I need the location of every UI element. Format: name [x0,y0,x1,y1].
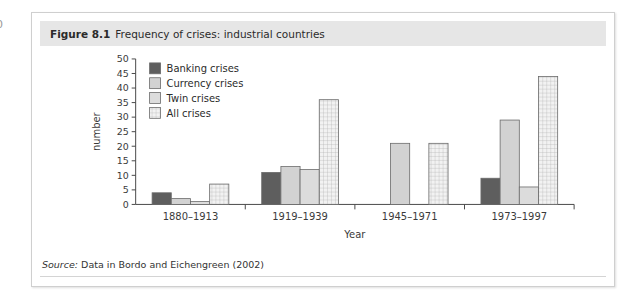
legend-label-banking-crises: Banking crises [167,63,239,74]
legend-label-twin-crises: Twin crises [166,93,221,104]
y-axis-tick-label: 45 [117,68,129,79]
figure-title-label: Frequency of crises: industrial countrie… [115,28,325,40]
chart-plot-area: 05101520253035404550number1880–19131919–… [40,53,606,246]
source-label: Source: [42,259,78,270]
bar-all-crises-1880–1913 [210,184,229,204]
bar-currency-crises-1919–1939 [281,167,300,205]
legend-swatch-all-crises [150,107,161,118]
y-axis-tick-label: 20 [117,141,129,152]
y-axis-tick-label: 10 [117,170,129,181]
y-axis-tick-label: 40 [117,82,129,93]
y-axis-tick-label: 15 [117,155,129,166]
y-axis-tick-label: 35 [117,97,129,108]
source-text: Data in Bordo and Eichengreen (2002) [78,259,264,270]
y-axis-tick-label: 30 [117,112,129,123]
bar-all-crises-1919–1939 [319,100,338,205]
y-axis-tick-label: 25 [117,126,129,137]
x-axis-category-label: 1973–1997 [491,211,547,222]
footer-divider [40,276,606,277]
bar-twin-crises-1919–1939 [300,170,319,205]
x-axis-category-label: 1880–1913 [163,211,219,222]
y-axis-tick-label: 5 [123,184,129,195]
bar-banking-crises-1973–1997 [481,178,500,204]
x-axis-category-label: 1945–1971 [382,211,438,222]
y-axis-title: number [91,111,102,151]
legend-label-all-crises: All crises [167,108,211,119]
legend-swatch-currency-crises [150,78,161,89]
bar-all-crises-1945–1971 [429,143,448,204]
x-axis-category-label: 1919–1939 [272,211,328,222]
bar-currency-crises-1945–1971 [391,143,410,204]
bar-currency-crises-1880–1913 [171,199,190,205]
y-axis-tick-label: 50 [117,53,129,64]
legend-swatch-twin-crises [150,93,161,104]
bar-banking-crises-1880–1913 [152,193,171,205]
bar-chart: 05101520253035404550number1880–19131919–… [40,53,606,246]
legend-swatch-banking-crises [150,63,161,74]
bar-currency-crises-1973–1997 [500,120,519,204]
figure-caption-header: Figure 8.1 Frequency of crises: industri… [40,21,606,46]
bar-twin-crises-1973–1997 [519,187,538,204]
bar-banking-crises-1919–1939 [262,172,281,204]
figure-source: Source: Data in Bordo and Eichengreen (2… [42,259,264,270]
bar-twin-crises-1880–1913 [190,202,209,205]
legend-label-currency-crises: Currency crises [167,78,244,89]
figure-number-label: Figure 8.1 [50,28,110,40]
y-axis-tick-label: 0 [123,199,129,210]
page-number: 0 [0,18,3,31]
figure-box: Figure 8.1 Frequency of crises: industri… [31,12,615,287]
x-axis-title: Year [343,229,366,240]
bar-all-crises-1973–1997 [538,76,557,204]
